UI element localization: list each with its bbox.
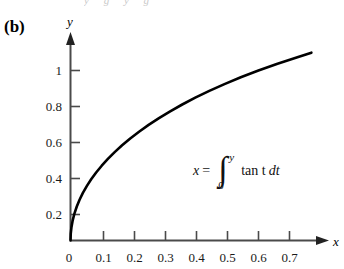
figure-panel: y g y g (b) 1 0.8 0 [0,0,344,269]
integral-formula: x = ∫ y 0 tan t dt [193,154,280,188]
integral-upper-limit: y [229,151,234,163]
x-tick-label-0_5: 0.5 [219,250,235,265]
integral-lower-limit: 0 [218,179,224,191]
y-tick-label-1: 1 [56,63,63,78]
formula-equals: = [202,163,210,179]
y-axis-arrow [66,32,75,45]
y-tick-label-0_4: 0.4 [46,171,63,186]
data-curve [71,53,312,241]
y-tick-label-0_2: 0.2 [46,207,62,222]
x-axis-title: x [332,234,339,249]
x-tick-label-0_2: 0.2 [126,250,142,265]
y-tick-label-0_6: 0.6 [46,135,63,150]
x-axis-arrow [316,236,329,245]
origin-label: 0 [66,250,73,265]
y-axis-title: y [65,14,73,29]
formula-differential: dt [269,163,280,179]
x-tick-label-0_6: 0.6 [250,250,267,265]
y-tick-label-0_8: 0.8 [46,99,62,114]
x-tick-label-0_1: 0.1 [95,250,111,265]
x-tick-label-0_4: 0.4 [188,250,205,265]
integral-group: ∫ y 0 [216,154,236,188]
formula-lhs: x [193,163,199,179]
y-axis-ticks [71,71,81,215]
x-axis-ticks [104,231,290,241]
x-tick-label-0_3: 0.3 [157,250,173,265]
formula-integrand: tan t [241,163,266,179]
x-tick-label-0_7: 0.7 [281,250,298,265]
plot-area: 1 0.8 0.6 0.4 0.2 0 0.1 0.2 0.3 0.4 0.5 … [0,0,344,269]
